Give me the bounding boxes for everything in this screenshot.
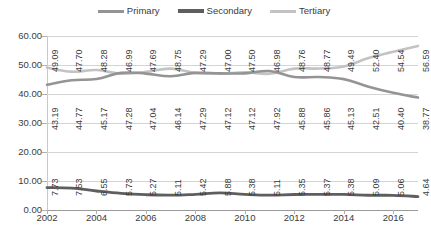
data-label-secondary: 7.53 xyxy=(75,178,84,196)
data-label-secondary: 5.09 xyxy=(372,178,381,196)
data-label-tertiary: 52.40 xyxy=(372,49,381,72)
data-label-tertiary: 47.00 xyxy=(224,49,233,72)
data-label-tertiary: 47.50 xyxy=(248,49,257,72)
data-label-primary: 47.04 xyxy=(149,107,158,130)
y-axis-tick-mark xyxy=(42,123,47,124)
data-label-secondary: 6.55 xyxy=(100,178,109,196)
data-label-secondary: 5.11 xyxy=(174,179,183,196)
data-label-primary: 45.86 xyxy=(323,107,332,130)
data-label-primary: 46.14 xyxy=(174,107,183,130)
data-label-primary: 47.92 xyxy=(273,107,282,130)
data-label-tertiary: 46.98 xyxy=(273,49,282,72)
data-label-tertiary: 46.99 xyxy=(125,49,134,72)
x-axis-tick-mark xyxy=(344,210,345,214)
data-label-tertiary: 48.28 xyxy=(100,49,109,72)
data-label-primary: 38.77 xyxy=(422,107,431,130)
data-label-secondary: 5.27 xyxy=(149,178,158,196)
data-label-secondary: 5.37 xyxy=(323,178,332,196)
data-label-primary: 47.29 xyxy=(199,107,208,130)
data-label-primary: 47.12 xyxy=(224,107,233,130)
data-label-tertiary: 48.76 xyxy=(298,49,307,72)
data-label-secondary: 5.11 xyxy=(273,179,282,196)
data-label-primary: 45.88 xyxy=(298,107,307,130)
data-label-secondary: 5.38 xyxy=(248,178,257,196)
x-axis-tick-mark xyxy=(195,210,196,214)
data-label-tertiary: 56.59 xyxy=(422,49,431,72)
data-label-secondary: 5.38 xyxy=(347,178,356,196)
data-label-secondary: 5.35 xyxy=(298,178,307,196)
data-label-primary: 47.12 xyxy=(248,107,257,130)
data-label-tertiary: 47.29 xyxy=(199,49,208,72)
data-label-primary: 42.51 xyxy=(372,107,381,130)
data-label-primary: 44.77 xyxy=(75,107,84,130)
data-label-secondary: 5.42 xyxy=(199,178,208,196)
data-label-secondary: 5.88 xyxy=(224,178,233,196)
y-axis-tick-mark xyxy=(42,94,47,95)
y-axis-tick-mark xyxy=(42,181,47,182)
x-axis-tick-mark xyxy=(294,210,295,214)
y-axis-tick-mark xyxy=(42,36,47,37)
data-label-secondary: 5.73 xyxy=(125,178,134,196)
x-axis-tick-mark xyxy=(96,210,97,214)
x-axis-tick-mark xyxy=(393,210,394,214)
data-label-tertiary: 54.54 xyxy=(397,49,406,72)
data-label-tertiary: 47.69 xyxy=(149,49,158,72)
data-label-tertiary: 47.70 xyxy=(75,49,84,72)
data-label-primary: 45.17 xyxy=(100,107,109,130)
data-label-secondary: 7.73 xyxy=(51,178,60,196)
y-axis-tick-mark xyxy=(42,65,47,66)
x-axis-tick-mark xyxy=(245,210,246,214)
data-label-tertiary: 48.75 xyxy=(174,49,183,72)
y-axis-tick-mark xyxy=(42,152,47,153)
data-label-primary: 43.19 xyxy=(51,107,60,130)
data-label-primary: 40.40 xyxy=(397,107,406,130)
data-label-tertiary: 49.09 xyxy=(51,49,60,72)
x-axis: 20022004200620082010201220142016 xyxy=(47,212,418,228)
data-label-secondary: 5.06 xyxy=(397,178,406,196)
data-label-primary: 47.28 xyxy=(125,107,134,130)
x-axis-tick-mark xyxy=(146,210,147,214)
data-label-tertiary: 48.77 xyxy=(323,49,332,72)
x-axis-tick-mark xyxy=(47,210,48,214)
data-label-tertiary: 49.49 xyxy=(347,49,356,72)
data-label-secondary: 4.64 xyxy=(422,178,431,196)
data-label-primary: 45.13 xyxy=(347,107,356,130)
